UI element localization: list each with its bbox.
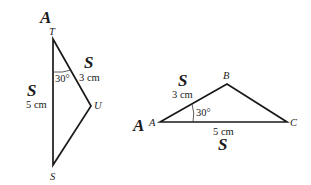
triangle-abc: A A B C 30° S 3 cm 5 cm S [132,70,298,154]
angle-a-arc [192,104,194,122]
vertex-label-a: A [148,117,156,128]
vertex-label-t: T [49,26,56,37]
side-length-ts: 5 cm [26,99,47,110]
vertex-label-u: U [94,100,103,111]
congruence-diagram: A T U S 30° S 3 cm S 5 cm A A B C 30° S … [0,0,311,185]
side-length-tu: 3 cm [79,72,100,83]
side-tag-tu: S [84,53,93,72]
vertex-label-b: B [223,70,230,81]
angle-tag-a-left: A [39,8,51,27]
side-tag-ac: S [218,135,227,154]
vertex-label-s: S [50,171,56,182]
angle-a-value: 30° [196,107,211,118]
vertex-label-c: C [290,117,298,128]
side-length-ab: 3 cm [172,89,193,100]
triangle-tus: A T U S 30° S 3 cm S 5 cm [26,8,103,182]
angle-tag-a-right: A [132,116,144,135]
angle-t-value: 30° [55,73,70,84]
side-tag-ab: S [178,71,187,90]
angle-t-arc [53,70,71,72]
side-tag-ts: S [27,81,36,100]
